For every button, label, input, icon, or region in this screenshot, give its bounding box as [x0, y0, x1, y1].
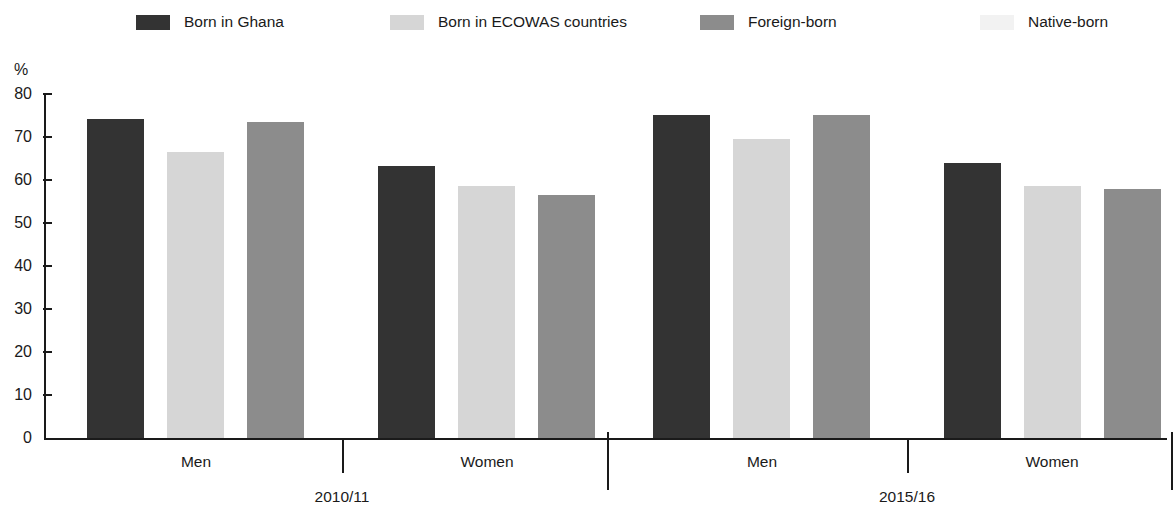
- x-axis-group-label: 2010/11: [272, 489, 412, 505]
- x-axis-line: [44, 438, 1167, 440]
- bar: [167, 152, 224, 438]
- bar: [538, 195, 595, 438]
- plot-area: [44, 94, 1164, 438]
- x-axis-category-label: Women: [427, 454, 547, 470]
- legend-item-label: Native-born: [1028, 14, 1108, 30]
- y-axis-tick: [43, 136, 52, 138]
- legend-swatch-faint: [980, 15, 1014, 30]
- x-axis-group-separator: [607, 432, 609, 490]
- legend-item: Born in ECOWAS countries: [390, 12, 627, 32]
- bar: [813, 115, 870, 438]
- legend-item-label: Born in ECOWAS countries: [438, 14, 627, 30]
- y-axis-tick-label: 70: [2, 129, 32, 145]
- bar: [1104, 189, 1161, 438]
- y-axis-tick-label: 50: [2, 215, 32, 231]
- y-axis-tick-label: 10: [2, 387, 32, 403]
- legend-item: Foreign-born: [700, 12, 837, 32]
- y-axis-tick: [43, 222, 52, 224]
- y-axis-tick-label: 30: [2, 301, 32, 317]
- bar: [653, 115, 710, 438]
- x-axis-category-separator: [907, 438, 909, 473]
- legend-item: Born in Ghana: [136, 12, 284, 32]
- legend-item: Native-born: [980, 12, 1108, 32]
- bar: [378, 166, 435, 438]
- bar: [733, 139, 790, 438]
- y-axis-tick: [43, 265, 52, 267]
- bar: [87, 119, 144, 438]
- y-axis-tick: [43, 93, 52, 95]
- bar: [1024, 186, 1081, 438]
- x-axis-category-separator: [342, 438, 344, 473]
- y-axis-tick: [43, 308, 52, 310]
- chart-legend: Born in GhanaBorn in ECOWAS countriesFor…: [0, 0, 1167, 56]
- y-axis-tick: [43, 394, 52, 396]
- legend-swatch-dark: [136, 15, 170, 30]
- legend-item-label: Born in Ghana: [184, 14, 284, 30]
- bar: [944, 163, 1001, 438]
- y-axis-unit-label: %: [14, 62, 28, 78]
- x-axis-category-label: Women: [992, 454, 1112, 470]
- bar: [458, 186, 515, 438]
- y-axis-tick-label: 60: [2, 172, 32, 188]
- x-axis-category-label: Men: [136, 454, 256, 470]
- x-axis-group-label: 2015/16: [837, 489, 977, 505]
- legend-item-label: Foreign-born: [748, 14, 837, 30]
- bar: [247, 122, 304, 438]
- y-axis-tick-label: 40: [2, 258, 32, 274]
- legend-swatch-medium: [700, 15, 734, 30]
- x-axis-category-label: Men: [702, 454, 822, 470]
- y-axis-tick-label: 80: [2, 86, 32, 102]
- y-axis-tick: [43, 351, 52, 353]
- legend-swatch-light: [390, 15, 424, 30]
- y-axis-tick-label: 0: [2, 430, 32, 446]
- y-axis-tick-label: 20: [2, 344, 32, 360]
- y-axis-tick: [43, 179, 52, 181]
